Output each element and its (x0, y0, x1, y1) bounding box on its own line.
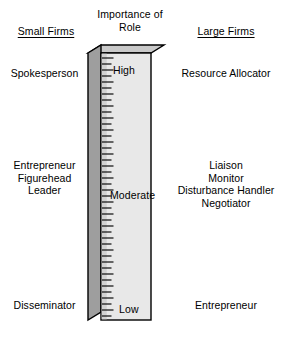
column-side-face (88, 45, 101, 320)
small-firms-moderate-roles: Entrepreneur Figurehead Leader (0, 159, 89, 197)
large-firms-low-roles: Entrepreneur (170, 299, 282, 312)
scale-label-moderate: Moderate (110, 189, 155, 201)
small-firms-high-roles: Spokesperson (0, 67, 89, 80)
header-importance-of-role: Importance of Role (90, 8, 170, 34)
importance-column (82, 42, 172, 332)
large-firms-high-roles: Resource Allocator (170, 67, 282, 80)
column-graphic (82, 42, 172, 332)
role-importance-diagram: Small Firms Importance of Role Large Fir… (0, 0, 283, 337)
scale-label-low: Low (119, 303, 139, 315)
header-large-firms: Large Firms (172, 25, 280, 38)
header-small-firms: Small Firms (2, 25, 90, 38)
small-firms-low-roles: Disseminator (0, 299, 89, 312)
large-firms-moderate-roles: Liaison Monitor Disturbance Handler Nego… (170, 159, 282, 209)
scale-label-high: High (113, 64, 135, 76)
